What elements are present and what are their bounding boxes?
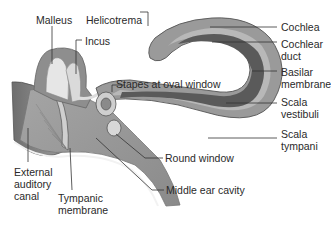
label-scala-tympani: Scala tympani — [281, 128, 318, 152]
ear-anatomy-diagram: Malleus Incus Helicotrema Stapes at oval… — [0, 0, 331, 230]
label-middle-ear-cavity: Middle ear cavity — [166, 184, 245, 196]
oval-window-shape — [96, 92, 116, 116]
label-helicotrema: Helicotrema — [86, 14, 142, 26]
label-incus: Incus — [85, 35, 110, 47]
label-stapes-at-oval-window: Stapes at oval window — [116, 78, 220, 90]
label-basilar-membrane: Basilar membrane — [281, 66, 331, 90]
round-window-shape — [107, 120, 121, 136]
label-cochlear-duct: Cochlear duct — [281, 38, 323, 62]
label-scala-vestibuli: Scala vestibuli — [281, 96, 319, 120]
label-round-window: Round window — [165, 152, 234, 164]
label-malleus: Malleus — [36, 14, 72, 26]
label-tympanic-membrane: Tympanic membrane — [58, 192, 108, 216]
label-external-auditory-canal: External auditory canal — [14, 166, 53, 202]
label-cochlea: Cochlea — [281, 21, 320, 33]
